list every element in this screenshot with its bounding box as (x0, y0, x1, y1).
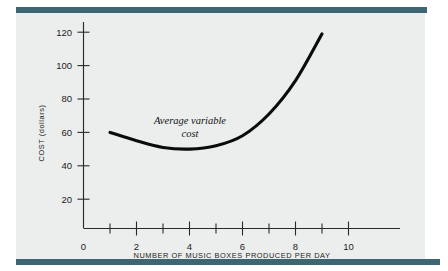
x-tick-label-10: 10 (343, 241, 354, 252)
x-axis-title: NUMBER OF MUSIC BOXES PRODUCED PER DAY (134, 251, 331, 260)
y-tick-label-60: 60 (61, 127, 72, 138)
x-tick-label-0: 0 (81, 241, 86, 252)
y-tick-label-20: 20 (61, 194, 72, 205)
average-variable-cost-chart: 120 100 80 60 40 20 COST (dollars) 0 2 4… (0, 0, 448, 271)
y-tick-label-80: 80 (61, 93, 72, 104)
y-tick-label-40: 40 (61, 160, 72, 171)
y-axis-title: COST (dollars) (37, 105, 46, 162)
y-tick-label-100: 100 (56, 60, 72, 71)
average-variable-cost-curve (110, 34, 322, 149)
curve-annotation-line-1: Average variable (153, 115, 226, 126)
figure-container: 120 100 80 60 40 20 COST (dollars) 0 2 4… (0, 0, 448, 271)
y-tick-label-120: 120 (56, 27, 72, 38)
curve-annotation-line-2: cost (182, 128, 200, 139)
